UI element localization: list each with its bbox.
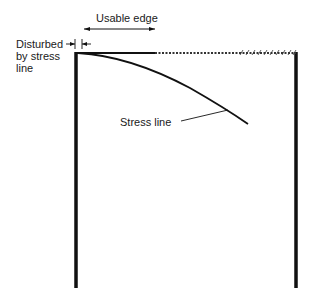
stress-line-label: Stress line [120,116,171,128]
disturbed-arrowhead-right [82,42,87,46]
usable-edge-label: Usable edge [96,12,158,24]
disturbed-arrowhead-left [70,42,75,46]
stress-line-leader [181,110,228,121]
usable-edge-arrowhead-right [149,27,155,31]
stress-line-curve [78,53,248,124]
disturbed-label-line1: Disturbed [16,38,63,50]
usable-edge-arrowhead-left [84,27,90,31]
disturbed-label-line3: line [16,62,33,74]
disturbed-label-line2: by stress [16,50,60,62]
